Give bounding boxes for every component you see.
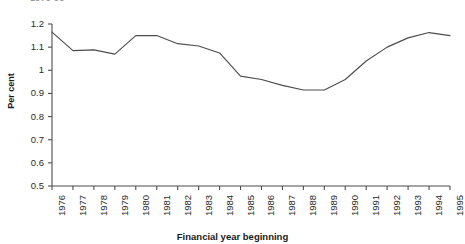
chart-figure: 1976-95 Per cent 0.50.60.70.80.911.11.2 …	[0, 0, 465, 244]
axes-lines	[52, 24, 450, 186]
x-axis-title: Financial year beginning	[0, 231, 465, 242]
plot-area	[0, 0, 465, 244]
axis-tick-marks	[48, 24, 450, 190]
data-series-line	[52, 32, 450, 90]
